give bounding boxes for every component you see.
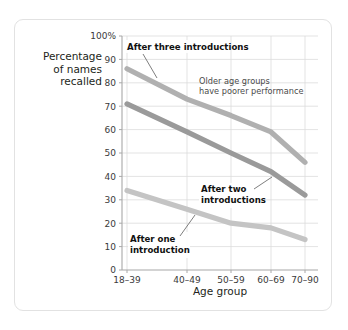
series-label-after-one-introduction-line2: introduction — [130, 245, 190, 255]
chart-canvas: 0102030405060708090100% 18–3940–4950–596… — [0, 0, 348, 330]
series-label-after-two-introductions-line1: After two — [201, 184, 247, 194]
y-tick-label: 30 — [105, 195, 117, 205]
x-tick-label: 50–59 — [217, 275, 245, 285]
note-line2: have poorer performance — [199, 86, 304, 96]
y-tick-label: 100% — [90, 31, 116, 41]
series-label-after-one-introduction-line1: After one — [130, 234, 176, 244]
series-label-after-three-introductions: After three introductions — [127, 42, 249, 52]
x-tick-label: 40–49 — [173, 275, 201, 285]
y-tick-label: 60 — [105, 125, 117, 135]
y-tick-label: 80 — [105, 78, 117, 88]
x-axis-ticks: 18–3940–4950–5960–6970–90 — [113, 270, 319, 285]
y-tick-label: 50 — [105, 148, 117, 158]
note-line1: Older age groups — [199, 76, 270, 86]
y-axis-ticks: 0102030405060708090100% — [90, 31, 122, 275]
y-tick-label: 40 — [105, 172, 117, 182]
y-tick-label: 0 — [110, 265, 116, 275]
x-tick-label: 18–39 — [113, 275, 141, 285]
y-tick-label: 90 — [105, 55, 117, 65]
chart-screenshot: Percentage of names recalled 01020304050… — [0, 0, 348, 330]
y-tick-label: 20 — [105, 219, 117, 229]
x-tick-label: 60–69 — [257, 275, 285, 285]
series-label-after-two-introductions-line2: introductions — [201, 195, 266, 205]
y-tick-label: 10 — [105, 242, 117, 252]
x-axis-title: Age group — [193, 285, 247, 297]
x-tick-label: 70–90 — [291, 275, 319, 285]
y-tick-label: 70 — [105, 102, 117, 112]
